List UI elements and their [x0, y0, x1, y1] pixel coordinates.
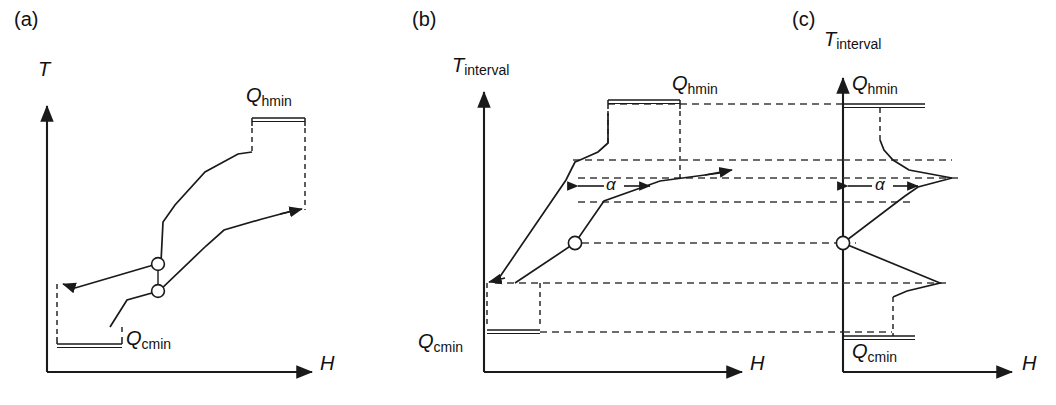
panel-a-axes — [47, 106, 312, 372]
panel-b-qhmin-bracket — [608, 100, 680, 178]
panel-b-alpha-label: α — [606, 175, 616, 195]
panel-a-qhmin-label: Qhmin — [246, 84, 292, 107]
panel-c-label: (c) — [792, 8, 815, 31]
figure-container: (a) T H Qhmin Qcmin (b) Tinterval H Qhmi… — [0, 0, 1056, 405]
panel-b-shifted-hot-curve — [497, 113, 608, 281]
panel-c-qhmin-line — [843, 104, 925, 108]
panel-b-y-axis-sub: interval — [464, 62, 509, 78]
panel-c-alpha-label: α — [875, 175, 885, 195]
panel-a-pinch-circle-hot — [152, 258, 165, 271]
panel-a-label: (a) — [14, 8, 38, 31]
panel-b-qcmin-q: Q — [418, 330, 434, 352]
panel-b-shifted-cold-curve — [515, 173, 720, 283]
panel-b-pinch-circle — [568, 236, 581, 249]
panel-c-qcmin-q: Q — [852, 340, 868, 362]
panel-c-qhmin-sub: hmin — [868, 81, 898, 97]
panel-b-qhmin-q: Q — [672, 72, 688, 94]
panel-b-interval-lines — [495, 104, 843, 332]
panel-c-gcc-dashed-connectors — [880, 108, 893, 336]
panel-c-y-axis-t: T — [824, 28, 836, 50]
panel-b-hot-curve-arrow — [489, 278, 505, 282]
panel-b-qcmin-bracket — [487, 283, 540, 334]
panel-c-qhmin-label: Qhmin — [852, 72, 898, 95]
panel-b-cold-curve-arrow — [705, 170, 732, 175]
panel-c-axes — [843, 78, 1012, 372]
panel-b-x-axis-label: H — [750, 352, 764, 375]
panel-a-qcmin-q: Q — [126, 327, 142, 349]
panel-a-x-axis-label: H — [320, 352, 334, 375]
panel-b-y-axis-t: T — [452, 54, 464, 76]
panel-b-qhmin-label: Qhmin — [672, 72, 718, 95]
panel-c-qcmin-line — [843, 336, 915, 340]
panel-b-qcmin-label: Qcmin — [418, 330, 463, 353]
panel-b-qhmin-sub: hmin — [688, 81, 718, 97]
panel-c-qhmin-q: Q — [852, 72, 868, 94]
panel-c-y-axis-label: Tinterval — [824, 28, 881, 51]
panel-a-qhmin-sub: hmin — [262, 93, 292, 109]
panel-a-cold-curve-arrow — [280, 209, 302, 214]
panel-a-hot-curve-arrow — [63, 284, 75, 288]
panel-c-y-axis-sub: interval — [836, 36, 881, 52]
panel-c-pinch-circle — [836, 236, 849, 249]
panel-b-qcmin-sub: cmin — [434, 339, 464, 355]
panel-a-qcmin-label: Qcmin — [126, 327, 171, 350]
panel-c-qcmin-label: Qcmin — [852, 340, 897, 363]
panel-b-label: (b) — [412, 8, 436, 31]
panel-c-qcmin-sub: cmin — [868, 349, 898, 365]
panel-a-qhmin-q: Q — [246, 84, 262, 106]
panel-a-y-axis-label: T — [38, 58, 50, 81]
panel-a-qcmin-bracket — [57, 284, 122, 348]
panel-b-y-axis-label: Tinterval — [452, 54, 509, 77]
panel-c-x-axis-label: H — [1022, 352, 1036, 375]
panel-a-qhmin-bracket — [252, 118, 305, 210]
panel-a-qcmin-sub: cmin — [142, 336, 172, 352]
panel-c-grand-composite-curve — [843, 140, 952, 297]
panel-a-pinch-circle-cold — [152, 285, 165, 298]
